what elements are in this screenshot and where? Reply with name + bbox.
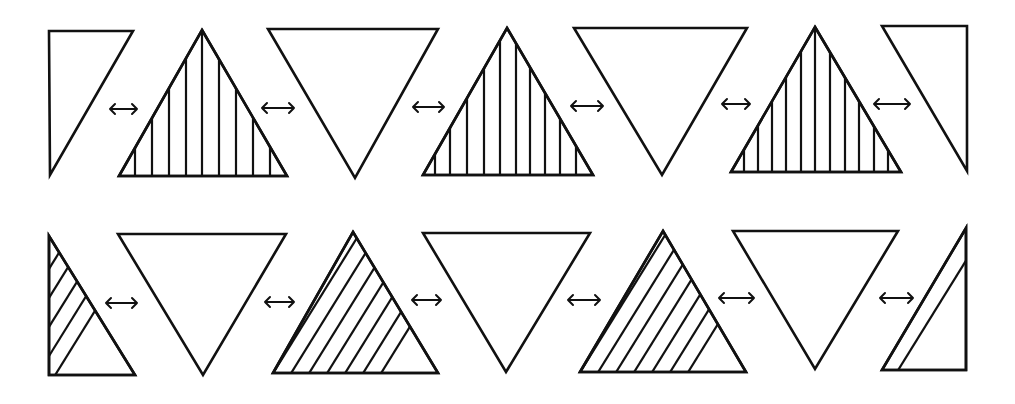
double-arrow-icon <box>568 295 600 305</box>
triangle-outline <box>882 26 967 171</box>
triangle-outline <box>118 234 286 375</box>
half-triangle-right-shape <box>882 26 967 171</box>
triangle-down-shape <box>118 234 286 375</box>
triangle-down-shape <box>268 29 438 178</box>
triangle-outline <box>733 231 898 369</box>
triangle-outline <box>423 233 590 372</box>
double-arrow-icon <box>412 295 441 305</box>
double-arrow-icon <box>110 104 137 114</box>
double-arrow-icon <box>874 99 910 109</box>
double-arrow-icon <box>880 293 913 303</box>
double-arrow-icon <box>413 102 444 112</box>
triangle-down-shape <box>574 28 747 175</box>
double-arrow-icon <box>571 101 603 111</box>
triangle-diagram <box>0 0 1015 404</box>
double-arrow-icon <box>722 99 750 109</box>
triangle-down-shape <box>733 231 898 369</box>
half-triangle-left-shape <box>0 226 148 385</box>
triangle-down-shape <box>423 233 590 372</box>
triangle-outline <box>423 28 593 175</box>
double-arrow-icon <box>265 297 294 307</box>
row-diagonal-hatch <box>0 218 992 385</box>
double-arrow-icon <box>719 293 754 303</box>
double-arrow-icon <box>106 298 137 308</box>
double-arrow-icon <box>262 103 294 113</box>
triangle-outline <box>49 31 133 175</box>
half-triangle-left-shape <box>49 31 133 175</box>
triangle-outline <box>268 29 438 178</box>
triangle-outline <box>574 28 747 175</box>
